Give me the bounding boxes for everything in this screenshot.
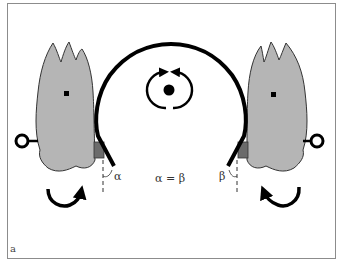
- right-rotation-arrow-icon: [264, 187, 299, 206]
- right-tooth-center-dot: [271, 92, 276, 97]
- right-tooth: [247, 42, 307, 171]
- left-tooth: [36, 42, 95, 171]
- left-rotation-arrow-icon: [48, 189, 81, 206]
- rotation-center-dot: [164, 85, 175, 96]
- left-ring-icon: [16, 135, 38, 147]
- archwire: [96, 44, 246, 166]
- right-angle-label: β: [219, 170, 225, 183]
- right-angle-arc: [229, 170, 237, 177]
- orthodontic-diagram: α β α = β: [0, 0, 343, 266]
- rotation-icon: [147, 72, 192, 108]
- left-angle-label: α: [114, 170, 122, 183]
- equation-label: α = β: [155, 172, 185, 185]
- left-angle-arc: [103, 170, 112, 177]
- panel-label: a: [10, 243, 16, 254]
- left-tooth-center-dot: [64, 91, 69, 96]
